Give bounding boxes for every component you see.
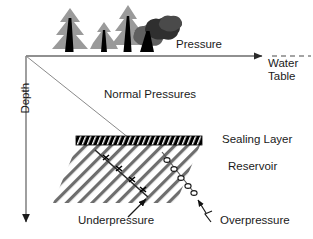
conifer-tree-2-icon <box>90 22 118 52</box>
sealing-layer-label: Sealing Layer <box>222 133 292 146</box>
underpressure-label: Underpressure <box>78 214 154 227</box>
overpressure-leader-arrow <box>198 200 206 213</box>
water-table-label: Water Table <box>268 57 312 82</box>
normal-pressures-label: Normal Pressures <box>104 88 196 101</box>
pressure-axis-label: Pressure <box>176 38 222 51</box>
sealing-layer-band <box>76 136 202 145</box>
diagram-canvas: Pressure Water Table Normal Pressures Se… <box>0 0 313 239</box>
diagram-svg <box>0 0 313 239</box>
deciduous-tree-1-icon <box>133 15 182 52</box>
conifer-tree-1-icon <box>52 8 88 52</box>
depth-axis-label: Depth <box>19 71 32 125</box>
overpressure-label: Overpressure <box>220 214 290 227</box>
tree-group <box>52 5 182 52</box>
reservoir-label: Reservoir <box>228 160 277 173</box>
